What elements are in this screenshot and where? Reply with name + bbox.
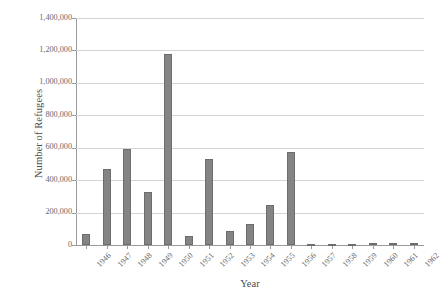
x-tick-label-1954: 1954 xyxy=(259,251,277,269)
x-tick-mark xyxy=(127,246,128,249)
y-axis-tick-labels: 0200,000400,000600,000800,0001,000,0001,… xyxy=(0,0,72,300)
bar-1948 xyxy=(123,149,131,245)
y-tick-label: 400,000 xyxy=(6,175,72,184)
x-tick-label-1952: 1952 xyxy=(218,251,236,269)
x-tick-label-1950: 1950 xyxy=(177,251,195,269)
x-axis-title: Year xyxy=(76,278,424,289)
bar-1953 xyxy=(226,231,234,245)
x-tick-label-1956: 1956 xyxy=(300,251,318,269)
y-tick-label: 1,400,000 xyxy=(6,13,72,22)
x-tick-label-1960: 1960 xyxy=(382,251,400,269)
x-tick-label-1962: 1962 xyxy=(423,251,441,269)
x-tick-label-1947: 1947 xyxy=(115,251,133,269)
x-tick-label-1953: 1953 xyxy=(238,251,256,269)
plot-area xyxy=(76,18,424,245)
x-tick-mark xyxy=(250,246,251,249)
bar-1962 xyxy=(410,243,418,245)
bar-1946 xyxy=(82,234,90,245)
x-tick-mark xyxy=(393,246,394,249)
bar-1952 xyxy=(205,159,213,245)
bar-series xyxy=(76,18,424,245)
x-tick-label-1961: 1961 xyxy=(402,251,420,269)
x-tick-mark xyxy=(311,246,312,249)
bar-1947 xyxy=(103,169,111,245)
x-tick-mark xyxy=(270,246,271,249)
x-tick-mark xyxy=(148,246,149,249)
y-tick-label: 800,000 xyxy=(6,110,72,119)
x-tick-mark xyxy=(86,246,87,249)
y-tick-label: 1,200,000 xyxy=(6,45,72,54)
x-tick-mark xyxy=(373,246,374,249)
x-tick-mark xyxy=(332,246,333,249)
x-tick-mark xyxy=(107,246,108,249)
bar-1951 xyxy=(185,236,193,245)
bar-1950 xyxy=(164,54,172,245)
y-tick-label: 1,000,000 xyxy=(6,77,72,86)
x-tick-label-1959: 1959 xyxy=(361,251,379,269)
y-tick-label: 600,000 xyxy=(6,142,72,151)
x-tick-mark xyxy=(189,246,190,249)
x-axis-tick-labels: 1946194719481949195019511952195319541955… xyxy=(76,246,424,280)
x-tick-mark xyxy=(291,246,292,249)
y-tick-label: 0 xyxy=(6,240,72,249)
x-tick-mark xyxy=(352,246,353,249)
x-tick-label-1958: 1958 xyxy=(341,251,359,269)
x-tick-label-1951: 1951 xyxy=(197,251,215,269)
x-tick-label-1946: 1946 xyxy=(95,251,113,269)
x-tick-label-1949: 1949 xyxy=(156,251,174,269)
bar-1949 xyxy=(144,192,152,245)
x-tick-mark xyxy=(168,246,169,249)
y-tick-label: 200,000 xyxy=(6,207,72,216)
x-tick-mark xyxy=(230,246,231,249)
x-tick-mark xyxy=(414,246,415,249)
bar-1954 xyxy=(246,224,254,245)
bar-1955 xyxy=(266,205,274,245)
x-tick-label-1955: 1955 xyxy=(279,251,297,269)
bar-1956 xyxy=(287,152,295,245)
bar-1960 xyxy=(369,243,377,245)
x-tick-label-1957: 1957 xyxy=(320,251,338,269)
chart-figure: Number of Refugees 0200,000400,000600,00… xyxy=(0,0,446,300)
x-tick-label-1948: 1948 xyxy=(136,251,154,269)
x-tick-mark xyxy=(209,246,210,249)
